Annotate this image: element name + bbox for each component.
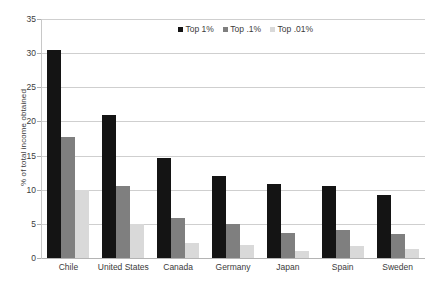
legend-item[interactable]: Top 1%	[178, 24, 214, 34]
bar	[226, 224, 240, 258]
bar-groups	[41, 19, 425, 258]
legend-label: Top .01%	[278, 24, 313, 34]
legend-swatch-icon	[178, 27, 183, 32]
bar-chart: % of total income obtained 0510152025303…	[0, 0, 432, 290]
legend-item[interactable]: Top .01%	[270, 24, 313, 34]
x-tick-label: Canada	[151, 262, 206, 272]
bar	[377, 195, 391, 258]
y-tick-label: 20	[6, 116, 36, 126]
chart-legend: Top 1%Top .1%Top .01%	[178, 24, 313, 34]
bar	[322, 186, 336, 258]
legend-item[interactable]: Top .1%	[223, 24, 261, 34]
bar	[47, 50, 61, 258]
bar	[185, 243, 199, 258]
bar-group	[151, 19, 206, 258]
y-tick-label: 10	[6, 185, 36, 195]
bar	[171, 218, 185, 258]
bar	[405, 249, 419, 258]
bar	[157, 158, 171, 258]
legend-swatch-icon	[270, 27, 275, 32]
bar	[391, 234, 405, 258]
bar-group	[260, 19, 315, 258]
x-axis-tick-labels: ChileUnited StatesCanadaGermanyJapanSpai…	[41, 262, 425, 272]
bar	[130, 224, 144, 258]
y-tick-label: 0	[6, 253, 36, 263]
x-tick-label: Spain	[315, 262, 370, 272]
y-axis-tick-labels: 05101520253035	[0, 19, 36, 259]
bar	[281, 233, 295, 258]
bar-group	[370, 19, 425, 258]
legend-label: Top 1%	[186, 24, 214, 34]
y-tick-mark	[37, 258, 41, 259]
bar-group	[41, 19, 96, 258]
bar-group	[206, 19, 261, 258]
x-tick-label: United States	[96, 262, 151, 272]
bar-group	[315, 19, 370, 258]
legend-label: Top .1%	[230, 24, 261, 34]
legend-swatch-icon	[223, 27, 228, 32]
x-tick-label: Japan	[260, 262, 315, 272]
bar	[350, 246, 364, 258]
gridline	[41, 258, 425, 259]
bar	[61, 137, 75, 258]
bar	[336, 230, 350, 258]
x-tick-label: Sweden	[370, 262, 425, 272]
x-tick-label: Chile	[41, 262, 96, 272]
bar	[75, 190, 89, 258]
x-tick-label: Germany	[206, 262, 261, 272]
y-tick-label: 5	[6, 219, 36, 229]
bar	[116, 186, 130, 258]
bar	[102, 115, 116, 258]
bar	[212, 176, 226, 258]
y-tick-label: 15	[6, 151, 36, 161]
bar	[240, 245, 254, 258]
y-tick-label: 25	[6, 82, 36, 92]
y-tick-label: 30	[6, 48, 36, 58]
bar	[295, 251, 309, 259]
y-tick-label: 35	[6, 14, 36, 24]
bar-group	[96, 19, 151, 258]
bar	[267, 184, 281, 258]
